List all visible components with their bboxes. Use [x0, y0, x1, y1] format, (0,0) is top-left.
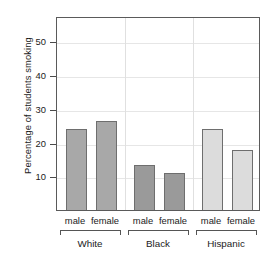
bar-white-male	[66, 129, 87, 210]
group-separator	[125, 18, 126, 210]
y-tick-label: 10	[18, 172, 46, 181]
bar-black-female	[164, 173, 185, 210]
gridline	[57, 178, 259, 179]
gridline	[57, 145, 259, 146]
gridline	[57, 111, 259, 112]
x-label-hispanic-female: female	[217, 216, 265, 225]
group-separator	[193, 18, 194, 210]
group-bracket-black	[128, 230, 189, 235]
plot-area	[56, 17, 260, 211]
group-bracket-white	[60, 230, 121, 235]
bar-chart: Percentage of students smoking 102030405…	[0, 0, 270, 254]
gridline	[57, 77, 259, 78]
bar-hispanic-female	[232, 150, 253, 210]
y-tick-label: 30	[18, 105, 46, 114]
y-tick-label: 20	[18, 139, 46, 148]
y-tick-label: 40	[18, 71, 46, 80]
bar-white-female	[96, 121, 117, 210]
bar-black-male	[134, 165, 155, 210]
bar-hispanic-male	[202, 129, 223, 210]
group-bracket-hispanic	[196, 230, 257, 235]
y-tick-label: 50	[18, 37, 46, 46]
gridline	[57, 43, 259, 44]
group-label-hispanic: Hispanic	[186, 239, 267, 249]
